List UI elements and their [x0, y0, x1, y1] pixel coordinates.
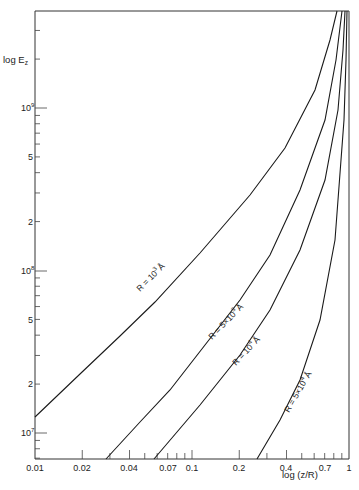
y-tick-label: 5 [28, 152, 33, 162]
x-tick-label: 1 [346, 463, 351, 473]
y-axis-minor-ticks [35, 30, 40, 458]
y-axis-tick-labels: 1095210852107 [21, 102, 35, 438]
curve-label-4: R = 5×104Å [281, 369, 313, 414]
x-tick-label: 0.04 [120, 463, 138, 473]
x-tick-label: 0.02 [73, 463, 91, 473]
y-axis-title: log Ez [3, 54, 28, 66]
x-tick-label: 0.07 [159, 463, 177, 473]
curve-labels: R = 103ÅR = 5×103ÅR = 104ÅR = 5×104Å [134, 260, 314, 414]
y-tick-label: 107 [21, 427, 35, 438]
curve-3 [154, 11, 345, 459]
y-tick-label: 2 [28, 217, 33, 227]
chart: log Ez log (z/R) 1095210852107 0.010.020… [0, 0, 359, 490]
curve-label-2: R = 5×103Å [206, 301, 246, 342]
y-tick-label: 108 [21, 265, 35, 276]
curve-label-1: R = 103Å [134, 260, 167, 293]
y-tick-label: 2 [28, 379, 33, 389]
curve-label-3: R = 104Å [229, 333, 262, 367]
x-tick-label: 0.4 [280, 463, 293, 473]
x-tick-label: 0.2 [233, 463, 246, 473]
curve-2 [106, 11, 342, 459]
x-tick-label: 0.1 [186, 463, 199, 473]
y-tick-label: 109 [21, 102, 35, 113]
x-tick-label: 0.7 [319, 463, 332, 473]
y-tick-label: 5 [28, 315, 33, 325]
x-tick-label: 0.01 [26, 463, 44, 473]
x-axis-ticks [82, 450, 342, 459]
curve-1 [35, 11, 337, 417]
